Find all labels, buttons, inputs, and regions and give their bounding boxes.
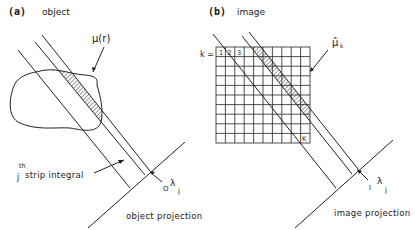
density-label: μ(r) — [92, 33, 110, 44]
ray-line-3 — [42, 35, 150, 171]
strip-label: strip integral — [25, 170, 84, 180]
hatched-strip-image — [242, 32, 358, 174]
object-projection-caption: object projection — [126, 211, 202, 221]
panel-b-title: image — [237, 7, 265, 17]
ray-line-1 — [18, 50, 130, 188]
cell-label-3: 3 — [237, 49, 241, 57]
image-projection-caption: image projection — [334, 208, 410, 218]
strip-label-j: j — [16, 173, 19, 182]
panel-a: (a) object μ(r) th j strip integral O λ … — [8, 6, 202, 228]
object-lambda: λ — [170, 178, 176, 188]
image-lambda: λ — [377, 176, 383, 186]
strip-label-sup: th — [19, 162, 26, 170]
object-lambda-pre: O — [163, 185, 169, 193]
panel-b-tag: (b) — [208, 6, 226, 17]
figure-canvas: (a) object μ(r) th j strip integral O λ … — [0, 0, 415, 230]
estimate-label: μ̂ — [332, 37, 339, 48]
image-lambda-pre: I — [369, 184, 371, 192]
object-lambda-sub: j — [177, 187, 180, 195]
estimate-arrow — [311, 50, 328, 71]
image-lambda-sub: j — [384, 186, 387, 194]
pixel-grid — [216, 47, 310, 143]
image-ray-line-1 — [213, 34, 336, 188]
hatched-strip-object — [35, 35, 150, 175]
cell-label-1: 1 — [219, 49, 223, 57]
image-ray-line-3 — [249, 32, 358, 169]
panel-a-tag: (a) — [8, 6, 26, 17]
cell-label-K: K — [302, 135, 307, 143]
panel-a-title: object — [42, 7, 70, 17]
ray-line-2 — [35, 42, 145, 175]
estimate-sub: k — [340, 42, 344, 49]
pixel-index-label: k = — [200, 50, 214, 59]
panel-b: (b) image k = 1 2 — [200, 6, 410, 228]
